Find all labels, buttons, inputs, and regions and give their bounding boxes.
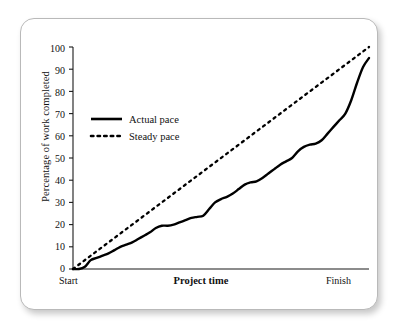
series-line-actual-pace <box>73 58 369 269</box>
chart-svg <box>21 19 379 311</box>
figure-card: Percentage of work completed Project tim… <box>20 18 378 310</box>
chart-plot-area: Percentage of work completed Project tim… <box>21 19 379 311</box>
series-line-steady-pace <box>73 47 369 269</box>
y-tick-marks <box>69 47 73 269</box>
